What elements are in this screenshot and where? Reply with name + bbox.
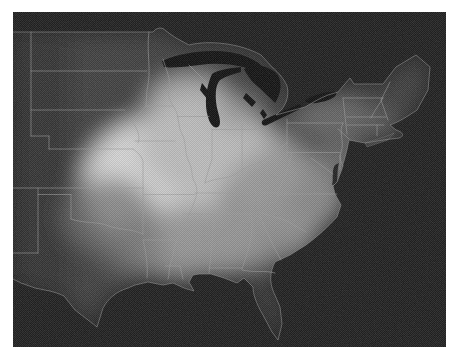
- film-grain: [13, 12, 446, 347]
- us-map-image: [13, 12, 446, 347]
- us-map-figure: [13, 12, 446, 347]
- scanned-page: [0, 0, 455, 360]
